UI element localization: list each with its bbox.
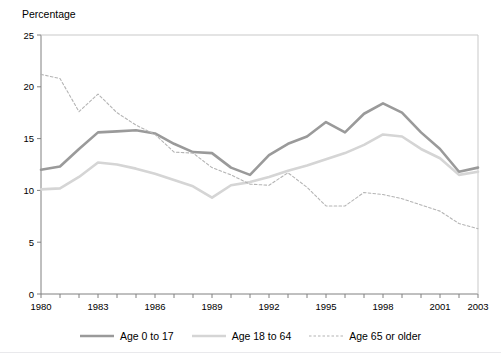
legend-label-age-18-to-64: Age 18 to 64 bbox=[232, 330, 292, 342]
svg-text:1989: 1989 bbox=[201, 301, 222, 312]
legend-entry-age-65-or-older[interactable]: Age 65 or older bbox=[309, 330, 421, 342]
legend-swatch-age-18-to-64 bbox=[192, 331, 226, 341]
legend-label-age-0-to-17: Age 0 to 17 bbox=[120, 330, 174, 342]
svg-text:15: 15 bbox=[23, 133, 34, 144]
svg-text:20: 20 bbox=[23, 81, 34, 92]
svg-text:1983: 1983 bbox=[87, 301, 108, 312]
legend-swatch-age-0-to-17 bbox=[80, 331, 114, 341]
svg-text:1995: 1995 bbox=[315, 301, 336, 312]
svg-text:1998: 1998 bbox=[372, 301, 393, 312]
svg-text:25: 25 bbox=[23, 30, 34, 41]
svg-text:5: 5 bbox=[29, 237, 34, 248]
svg-text:0: 0 bbox=[29, 289, 34, 300]
legend-entry-age-18-to-64[interactable]: Age 18 to 64 bbox=[192, 330, 292, 342]
svg-text:10: 10 bbox=[23, 185, 34, 196]
svg-text:1992: 1992 bbox=[258, 301, 279, 312]
series-line-age-65-or-older bbox=[41, 74, 478, 228]
chart-figure: Percentage of people in poverty by age g… bbox=[0, 0, 501, 360]
svg-text:2003: 2003 bbox=[467, 301, 488, 312]
legend-entry-age-0-to-17[interactable]: Age 0 to 17 bbox=[80, 330, 174, 342]
bottom-divider bbox=[0, 352, 501, 353]
legend-label-age-65-or-older: Age 65 or older bbox=[349, 330, 421, 342]
legend-swatch-age-65-or-older bbox=[309, 331, 343, 341]
chart-legend: Age 0 to 17 Age 18 to 64 Age 65 or older bbox=[0, 330, 501, 342]
svg-text:2001: 2001 bbox=[429, 301, 450, 312]
svg-text:1980: 1980 bbox=[30, 301, 51, 312]
svg-text:1986: 1986 bbox=[144, 301, 165, 312]
line-chart-plot: 0510152025198019831986198919921995199820… bbox=[0, 0, 501, 330]
